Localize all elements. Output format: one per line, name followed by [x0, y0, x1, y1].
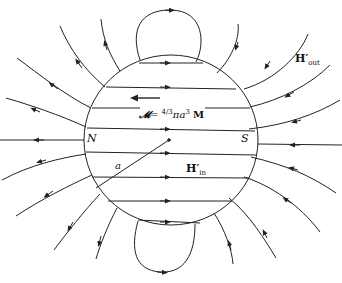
moment-symbol: 𝓜: [139, 109, 150, 120]
moment-exponent: 3: [185, 108, 189, 116]
magnetization-vector: M: [193, 109, 204, 120]
h-out-label: H′out: [295, 53, 320, 67]
south-pole-label: S: [241, 133, 249, 144]
moment-equation: 𝓜= 4/3πa3 M: [138, 109, 205, 120]
field-diagram: [0, 0, 342, 283]
h-out-sub: out: [308, 59, 320, 67]
sphere-outline: [84, 55, 258, 225]
radius-label: a: [115, 161, 121, 171]
h-in-base: H′: [186, 162, 199, 175]
h-in-label: H′in: [186, 163, 206, 177]
north-pole-label: N: [87, 133, 97, 144]
h-in-sub: in: [199, 169, 206, 177]
moment-fraction: 4/3: [162, 108, 173, 116]
moment-equals: =: [150, 109, 162, 120]
moment-pi-a: πa: [173, 109, 186, 120]
h-out-base: H′: [295, 52, 308, 65]
